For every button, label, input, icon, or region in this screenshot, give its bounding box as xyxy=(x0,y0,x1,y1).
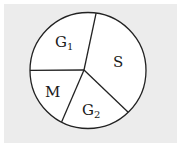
label-M: M xyxy=(45,83,60,101)
label-S: S xyxy=(113,53,123,71)
pie-chart: S G2 M G1 xyxy=(0,0,181,147)
